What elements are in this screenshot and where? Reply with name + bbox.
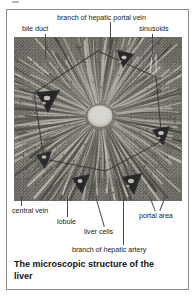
- figure-root: bile duct branch of hepatic portal vein …: [0, 0, 196, 298]
- leader-line-central-vein: [21, 196, 22, 206]
- leader-line-branch-of-hepatic-artery: [123, 196, 124, 245]
- label-portal-area: portal area: [139, 212, 173, 220]
- scan-artifact: [12, 1, 19, 3]
- leader-line-bile-duct: [45, 34, 46, 59]
- leader-line-branch-of-hepatic-portal-vein: [110, 22, 111, 50]
- label-bile-duct: bile duct: [22, 25, 48, 33]
- liver-histology-micrograph: [14, 37, 182, 201]
- label-central-vein: central vein: [12, 207, 48, 215]
- label-branch-of-hepatic-artery: branch of hepatic artery: [72, 246, 146, 254]
- leader-line-lobule: [67, 196, 68, 217]
- figure-caption: The microscopic structure of the liver: [14, 258, 174, 282]
- label-sinusoids: sinusoids: [139, 25, 169, 33]
- leader-line-sinusoids: [152, 34, 153, 55]
- label-liver-cells: liver cells: [84, 228, 113, 236]
- label-lobule: lobule: [57, 218, 76, 226]
- label-branch-of-hepatic-portal-vein: branch of hepatic portal vein: [57, 14, 146, 22]
